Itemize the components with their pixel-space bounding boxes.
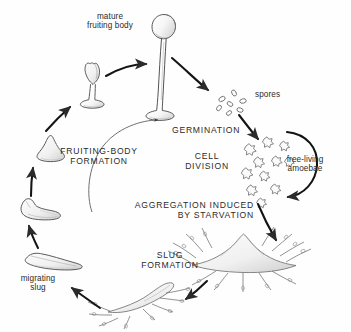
label-slug-formation: SLUG FORMATION [139, 251, 201, 271]
label-migrating-slug: migrating slug [9, 274, 67, 293]
label-germination: GERMINATION [172, 126, 257, 136]
label-spores: spores [255, 90, 305, 99]
label-cell-division: CELL DIVISION [180, 152, 234, 172]
life-cycle-diagram: mature fruiting body spores GERMINATION … [0, 0, 351, 332]
arrow-to-mound [31, 168, 33, 196]
label-fruiting-body-formation: FRUITING-BODY FORMATION [51, 147, 147, 167]
label-mature-fruiting-body: mature fruiting body [75, 12, 145, 31]
arrow-to-spores [172, 58, 208, 90]
label-free-living-amoebae: free-living amoebae [274, 155, 336, 174]
arrow-to-mature-fruiting-body [106, 64, 146, 76]
stage-migrating-slug [25, 253, 82, 270]
arrow-fruiting-body-formation [46, 107, 70, 131]
stage-spores [216, 89, 247, 116]
arrow-to-culminating-slug [29, 226, 38, 248]
stage-developing-fruiting-body [80, 63, 104, 109]
stage-culminating-slug [21, 199, 60, 220]
stage-mature-fruiting-body [146, 15, 176, 121]
arrow-to-migrating-slug [72, 288, 100, 308]
label-aggregation-induced-by-starvation: AGGREGATION INDUCED BY STARVATION [122, 201, 254, 221]
stage-slug-formation [88, 283, 190, 329]
arrow-aggregation [258, 204, 276, 240]
